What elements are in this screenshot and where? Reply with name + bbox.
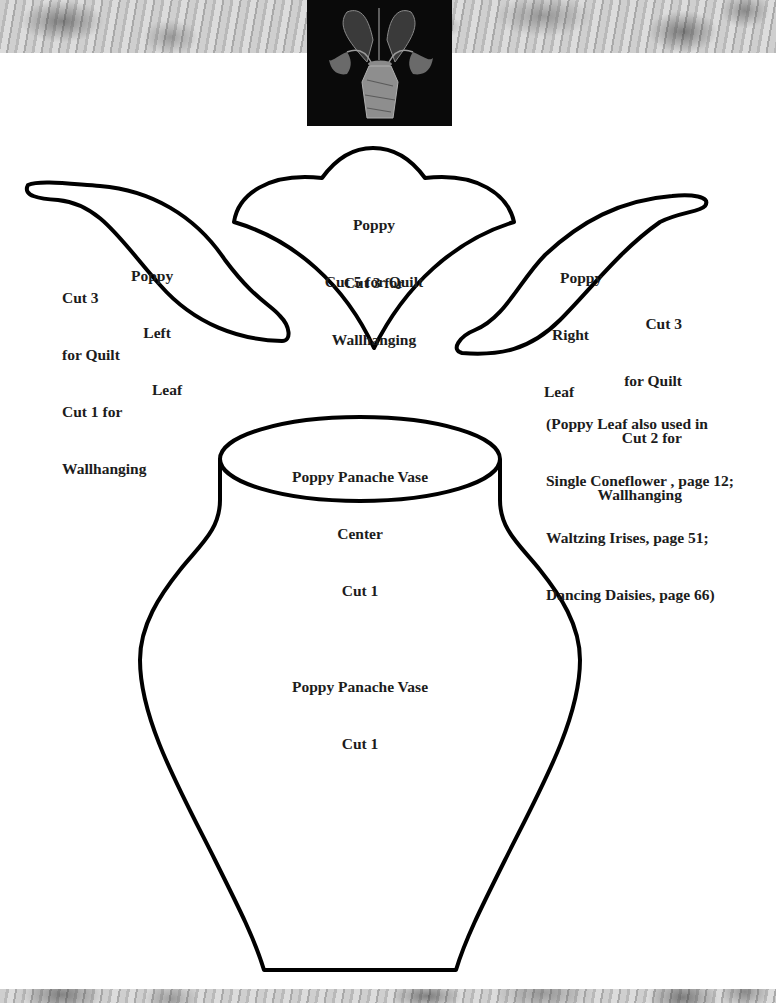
- note-line: (Poppy Leaf also used in: [546, 414, 734, 433]
- vase-line: Cut 1: [260, 734, 460, 753]
- vase-center-line: Center: [260, 524, 460, 543]
- cut-line: Cut 1 for: [62, 402, 146, 421]
- cut-line: Cut 3: [62, 288, 146, 307]
- poppy-leaf-usage-note: (Poppy Leaf also used in Single Coneflow…: [546, 376, 734, 623]
- left-leaf-title-line: Leaf: [152, 380, 182, 399]
- left-leaf-cut-instructions: Cut 3 for Quilt Cut 1 for Wallhanging: [62, 250, 146, 497]
- cut-line: Cut 3 for: [274, 273, 474, 292]
- vase-center-line: Poppy Panache Vase: [260, 467, 460, 486]
- cut-line: Cut 3: [540, 314, 682, 333]
- vase-body-label: Poppy Panache Vase Cut 1: [260, 639, 460, 772]
- flower-title-line: Poppy: [274, 215, 474, 234]
- note-line: Single Coneflower , page 12;: [546, 471, 734, 490]
- note-line: Dancing Daisies, page 66): [546, 585, 734, 604]
- note-line: Waltzing Irises, page 51;: [546, 528, 734, 547]
- vase-center-label: Poppy Panache Vase Center Cut 1: [260, 429, 460, 619]
- cut-line: Wallhanging: [62, 459, 146, 478]
- flower-wallhanging-instructions: Cut 3 for Wallhanging: [274, 235, 474, 368]
- vase-line: Poppy Panache Vase: [260, 677, 460, 696]
- vase-center-line: Cut 1: [260, 581, 460, 600]
- cut-line: Wallhanging: [274, 330, 474, 349]
- cut-line: for Quilt: [62, 345, 146, 364]
